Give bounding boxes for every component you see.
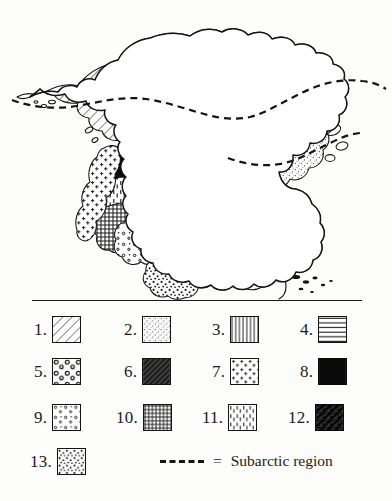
legend-swatch-plus-marks	[230, 358, 259, 385]
north-america-map	[0, 0, 392, 300]
legend-item-13[interactable]: 13.	[30, 448, 86, 475]
legend-swatch-dense-dark-hatch	[142, 358, 171, 385]
legend-item-10[interactable]: 10.	[116, 404, 172, 431]
legend-number-12: 12.	[288, 408, 310, 428]
subarctic-legend-label: Subarctic region	[231, 452, 333, 470]
legend-swatch-vertical-lines	[230, 316, 259, 343]
legend-item-7[interactable]: 7.	[212, 358, 259, 385]
legend-row-3: 9. 10. 11. 12.	[0, 398, 392, 442]
legend-item-2[interactable]: 2.	[124, 316, 171, 343]
legend-item-1[interactable]: 1.	[34, 316, 81, 343]
legend-number-10: 10.	[116, 408, 138, 428]
legend-item-12[interactable]: 12.	[288, 404, 344, 431]
legend-number-9: 9.	[34, 408, 47, 428]
map-legend: 1. 2. 3. 4.	[0, 310, 392, 501]
legend-number-7: 7.	[212, 362, 225, 382]
subarctic-legend-key: = Subarctic region	[160, 452, 333, 470]
legend-swatch-sparse-dots	[52, 404, 81, 431]
legend-swatch-dense-dots	[57, 448, 86, 475]
legend-divider-rule	[32, 300, 362, 301]
legend-swatch-diagonal-hatch	[52, 316, 81, 343]
legend-item-6[interactable]: 6.	[124, 358, 171, 385]
legend-swatch-fine-stipple	[142, 316, 171, 343]
legend-swatch-solid-black	[318, 358, 347, 385]
legend-item-4[interactable]: 4.	[300, 316, 347, 343]
legend-item-8[interactable]: 8.	[300, 358, 347, 385]
legend-number-4: 4.	[300, 320, 313, 340]
legend-item-3[interactable]: 3.	[212, 316, 259, 343]
legend-row-4: 13. = Subarctic region	[0, 442, 392, 486]
legend-swatch-horizontal-lines	[318, 316, 347, 343]
dashed-line-icon	[160, 460, 204, 463]
legend-swatch-vertical-dashes	[228, 404, 257, 431]
legend-number-11: 11.	[202, 408, 223, 428]
legend-swatch-circles	[52, 358, 81, 385]
figure-page: 1. 2. 3. 4.	[0, 0, 392, 501]
legend-number-5: 5.	[34, 362, 47, 382]
legend-item-5[interactable]: 5.	[34, 358, 81, 385]
legend-number-1: 1.	[34, 320, 47, 340]
legend-number-8: 8.	[300, 362, 313, 382]
legend-swatch-crosshatch-grid	[143, 404, 172, 431]
legend-row-2: 5. 6. 7. 8.	[0, 354, 392, 398]
legend-number-2: 2.	[124, 320, 137, 340]
legend-row-1: 1. 2. 3. 4.	[0, 310, 392, 354]
legend-item-11[interactable]: 11.	[202, 404, 257, 431]
legend-number-13: 13.	[30, 452, 52, 472]
legend-number-6: 6.	[124, 362, 137, 382]
equals-sign: =	[213, 452, 222, 470]
legend-item-9[interactable]: 9.	[34, 404, 81, 431]
legend-swatch-dark-scribble	[315, 404, 344, 431]
legend-number-3: 3.	[212, 320, 225, 340]
